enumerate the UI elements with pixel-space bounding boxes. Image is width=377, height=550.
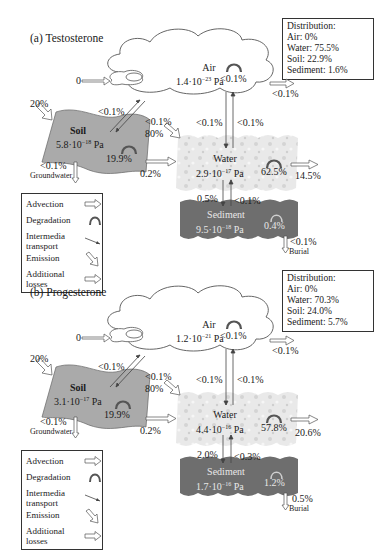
advection-in-arrow <box>82 77 110 85</box>
air-label: Air <box>189 62 229 73</box>
water-to-sediment-value: 0.5% <box>197 193 218 204</box>
advection-icon <box>84 198 102 210</box>
degradation-icon <box>88 213 102 227</box>
water-label: Water <box>200 153 250 164</box>
air-degradation-value: <0.1% <box>220 330 246 341</box>
groundwater-label: Groundwater <box>30 170 72 181</box>
air-to-water-value: <0.1% <box>196 117 222 128</box>
legend-additional-losses: Additionallosses <box>26 526 65 546</box>
water-label: Water <box>200 409 250 420</box>
soil-to-air-value: <0.1% <box>98 361 124 372</box>
groundwater-label: Groundwater <box>30 426 72 437</box>
water-emission-value: 80% <box>145 128 163 139</box>
soil-fugacity: 3.1·10−17 Pa <box>54 394 102 407</box>
soil-degradation-value: 19.9% <box>104 409 130 420</box>
legend-advection: Advection <box>26 456 64 466</box>
water-fugacity: 2.9·10−17 Pa <box>196 166 244 179</box>
air-to-soil-value: <0.1% <box>145 371 171 382</box>
panel-progesterone: (b) Progesterone Distribution: Air: 0% W… <box>0 267 377 544</box>
advection-in-arrow <box>82 334 110 342</box>
soil-label: Soil <box>70 382 86 393</box>
emission-icon <box>84 251 100 267</box>
soil-label: Soil <box>70 125 86 136</box>
degradation-icon <box>88 470 102 484</box>
legend-advection: Advection <box>26 199 64 209</box>
emission-icon <box>84 508 100 524</box>
sediment-label: Sediment <box>196 466 256 477</box>
sediment-degradation-value: 0.4% <box>264 220 285 231</box>
air-label: Air <box>189 319 229 330</box>
panel-testosterone: (a) Testosterone Distribution: Air: 0% W… <box>0 0 377 272</box>
soil-emission-value: 20% <box>30 98 48 109</box>
air-advection-out-arrow <box>270 336 294 345</box>
legend-emission: Emission <box>26 510 60 520</box>
soil-degradation-value: 19.9% <box>106 153 132 164</box>
water-to-sediment-value: 2.0% <box>197 449 218 460</box>
air-advection-out-value: <0.1% <box>272 88 298 99</box>
legend: Advection Degradation Intermediatranspor… <box>21 450 103 550</box>
legend-degradation: Degradation <box>26 215 70 225</box>
additional-losses-icon <box>84 530 102 542</box>
soil-to-water-value: 0.2% <box>140 425 161 436</box>
soil-to-water-arrow <box>146 414 176 423</box>
air-advection-out-arrow <box>270 79 294 88</box>
intermedia-transport-icon <box>84 235 102 249</box>
legend-degradation: Degradation <box>26 472 70 482</box>
sediment-degradation-value: 1.2% <box>264 477 285 488</box>
air-fugacity: 1.4·10−23 Pa <box>176 74 224 87</box>
legend-intermedia: Intermediatransport <box>26 231 65 251</box>
water-fugacity: 4.4·10−16 Pa <box>196 422 244 435</box>
sediment-to-water-value: <0.3% <box>234 451 260 462</box>
legend-intermedia: Intermediatransport <box>26 488 65 508</box>
sediment-label: Sediment <box>196 209 256 220</box>
advection-icon <box>84 455 102 467</box>
soil-fugacity: 5.8·10−18 Pa <box>56 137 104 150</box>
water-degradation-value: 57.8% <box>261 422 287 433</box>
air-degradation-value: <0.1% <box>220 73 246 84</box>
water-to-air-value: <0.1% <box>237 374 263 385</box>
water-to-air-value: <0.1% <box>237 117 263 128</box>
soil-to-water-value: 0.2% <box>140 168 161 179</box>
legend-emission: Emission <box>26 253 60 263</box>
soil-to-water-arrow <box>146 157 176 166</box>
burial-label: Burial <box>289 503 309 514</box>
burial-label: Burial <box>289 246 309 257</box>
soil-to-air-value: <0.1% <box>98 106 124 117</box>
sediment-to-water-value: <0.1% <box>234 195 260 206</box>
soil-emission-value: 20% <box>30 353 48 364</box>
air-to-water-value: <0.1% <box>196 374 222 385</box>
sediment-fugacity: 1.7·10−16 Pa <box>196 479 244 492</box>
air-advection-out-value: <0.1% <box>272 345 298 356</box>
air-fugacity: 1.2·10−21 Pa <box>176 331 224 344</box>
air-to-soil-value: <0.1% <box>145 116 171 127</box>
intermedia-transport-icon <box>84 492 102 506</box>
air-advection-in-value: 0 <box>76 75 81 86</box>
air-advection-in-value: 0 <box>76 332 81 343</box>
water-advection-out-value: 20.6% <box>295 427 321 438</box>
water-emission-value: 80% <box>145 383 163 394</box>
water-emission-arrow <box>164 380 180 395</box>
water-advection-out-value: 14.5% <box>295 170 321 181</box>
water-degradation-value: 62.5% <box>261 166 287 177</box>
sediment-fugacity: 9.5·10−18 Pa <box>196 222 244 235</box>
